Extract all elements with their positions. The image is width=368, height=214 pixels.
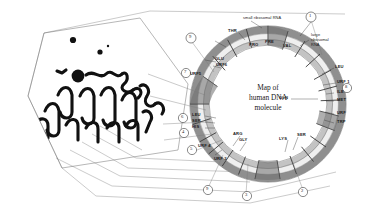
callout-number-9-top: 9 [189,35,191,40]
callout-number-7: 7 [184,70,186,75]
label-his: HIS [192,125,199,129]
label-urf6: URF6 [216,63,227,67]
label-lys: LYS [279,137,287,141]
callout-number-8: 8 [345,85,347,90]
label-ile: ILE [337,90,344,94]
callout-number-2: 2 [301,189,303,194]
label-urf4: URF 4 [198,144,211,148]
label-thr: THR [228,29,237,33]
label-leu-left: LEU [192,113,201,117]
label-met: MET [337,98,346,102]
label-urf5: URF5 [190,72,201,76]
center-title-line-1: Map of [236,84,300,91]
cell-illustration [19,18,188,168]
center-title-line-2: human DNA [232,94,304,101]
label-val: VAL [283,44,291,48]
label-urf1: URF 1 [337,80,350,84]
label-ser-bottom: SER [297,133,306,137]
label-ser-left: SER [192,119,201,123]
callout-number-1: 1 [309,14,311,19]
label-urf-right: URF [337,111,346,115]
label-gln: GLN [279,96,288,100]
label-glu: GLU [215,57,224,61]
center-title-line-3: molecule [236,104,300,111]
dna-map-figure: Map of human DNA molecule small ribosoma… [0,0,368,214]
callout-number-5: 5 [190,147,192,152]
callout-number-3: 3 [245,193,247,198]
label-leu-right: LEU [335,65,344,69]
label-large-ribosomal-rna-line3: RNA [311,43,320,47]
callout-number-4: 4 [182,130,184,135]
label-trp: TRP [337,120,346,124]
callout-number-6: 6 [181,115,183,120]
label-pre: PRE [265,40,274,44]
label-small-ribosomal-rna: small ribosomal RNA [243,16,281,20]
callout-number-9-bottom: 9 [206,187,208,192]
label-urf3: URF 3 [214,157,227,161]
label-gly: GLY [239,138,248,142]
label-pro: PRO [249,43,258,47]
label-arg: ARG [233,132,243,136]
